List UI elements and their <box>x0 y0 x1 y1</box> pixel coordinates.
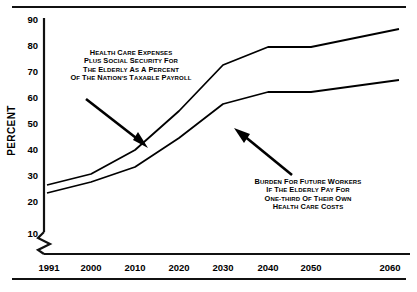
x-tick-label: 2060 <box>370 262 410 273</box>
x-tick-label: 2050 <box>291 262 331 273</box>
y-tick-label: 70 <box>18 66 38 77</box>
y-tick-label: 20 <box>18 196 38 207</box>
annotation-lower-line-3: ONE-THIRD OF THEIR OWN <box>218 195 398 203</box>
y-tick-label: 30 <box>18 170 38 181</box>
y-tick-label: 80 <box>18 40 38 51</box>
y-tick-label: 60 <box>18 92 38 103</box>
y-axis-break-icon <box>38 232 50 254</box>
annotation-lower-text: BURDEN FOR FUTURE WORKERS IF THE ELDERLY… <box>218 178 398 212</box>
x-tick-label: 2030 <box>203 262 243 273</box>
x-tick-label: 2020 <box>159 262 199 273</box>
annotation-lower-line-1: BURDEN FOR FUTURE WORKERS <box>218 178 398 186</box>
y-tick-label: 90 <box>18 14 38 25</box>
plot-area <box>0 0 417 292</box>
y-tick-label: 40 <box>18 144 38 155</box>
x-tick-label: 2040 <box>248 262 288 273</box>
x-tick-label: 2010 <box>115 262 155 273</box>
y-axis-title: Percent <box>6 101 17 161</box>
y-tick-label: 50 <box>18 118 38 129</box>
annotation-upper-text: HEALTH CARE EXPENSES PLUS SOCIAL SECURIT… <box>56 49 206 83</box>
chart-figure: Percent 90 80 70 60 50 40 30 20 10 1991 … <box>0 0 417 292</box>
series-line-lower <box>47 80 399 193</box>
annotation-lower-line-4: HEALTH CARE COSTS <box>218 203 398 211</box>
annotation-upper-line-4: OF THE NATION'S TAXABLE PAYROLL <box>56 74 206 82</box>
annotation-arrow-upper <box>86 99 148 148</box>
x-tick-label: 2000 <box>71 262 111 273</box>
annotation-arrow-lower <box>234 128 292 175</box>
y-tick-label: 10 <box>18 228 38 239</box>
x-tick-label: 1991 <box>29 262 69 273</box>
